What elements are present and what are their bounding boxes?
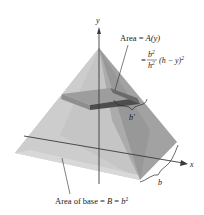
pyramid [15, 48, 177, 180]
formula-tail: (h − y)2 [159, 55, 184, 65]
formula-denominator: h2 [148, 60, 155, 70]
slice-area-label: Area = A(y) [120, 33, 160, 43]
x-axis-label: x [189, 160, 194, 169]
base-area-label: Area of base = B = b2 [55, 196, 129, 206]
slice-side-label: b' [129, 113, 135, 122]
y-axis-arrow-icon [97, 27, 101, 34]
pyramid-diagram: y x Area = A(y) = b2 h2 (h − y)2 b' b [0, 0, 204, 215]
y-axis-label: y [95, 16, 100, 25]
x-axis-arrow-icon [180, 160, 188, 166]
formula-numerator: b2 [148, 49, 155, 59]
formula-equals: = [141, 55, 146, 65]
base-side-label: b [158, 178, 162, 187]
